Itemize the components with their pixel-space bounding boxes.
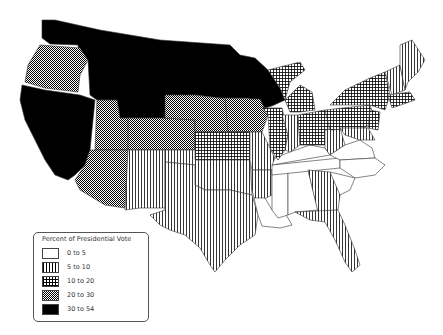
legend-item-10-20: 10 to 20 <box>42 275 94 287</box>
state-nm <box>125 150 165 210</box>
legend-swatch-black <box>42 304 59 315</box>
state-ny <box>330 72 390 110</box>
state-ma-ct <box>388 92 415 108</box>
state-ks <box>195 132 250 160</box>
legend-title: Percent of Presidential Vote <box>42 235 131 243</box>
state-md <box>340 128 375 140</box>
map-legend: Percent of Presidential Vote 0 to 5 5 to… <box>33 232 149 322</box>
legend-swatch-checker <box>42 290 59 301</box>
legend-swatch-white <box>42 248 59 259</box>
state-ar <box>252 170 272 200</box>
legend-item-30-54: 30 to 54 <box>42 303 94 315</box>
state-or <box>25 45 88 92</box>
legend-swatch-grid <box>42 276 59 287</box>
state-fl <box>295 210 360 272</box>
state-co <box>128 118 195 150</box>
state-pa <box>325 105 375 130</box>
state-ia <box>225 98 268 132</box>
state-me <box>400 40 425 90</box>
legend-item-20-30: 20 to 30 <box>42 289 94 301</box>
legend-item-5-10: 5 to 10 <box>42 261 90 273</box>
state-nj <box>368 110 380 130</box>
legend-item-0-5: 0 to 5 <box>42 247 86 259</box>
state-ca-nv <box>20 85 95 180</box>
state-ms <box>272 170 288 218</box>
legend-swatch-vertical-lines <box>42 262 59 273</box>
state-nc <box>340 158 385 178</box>
